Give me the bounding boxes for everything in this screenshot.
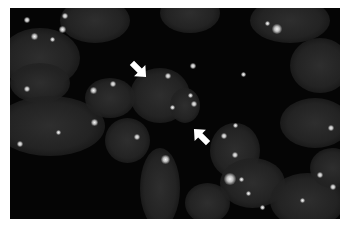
arrow-down-right-icon (127, 58, 151, 82)
focus (24, 17, 30, 23)
nucleus (140, 148, 180, 219)
micrograph (10, 8, 340, 219)
arrow-up-left-icon (189, 124, 213, 148)
focus (161, 155, 170, 164)
nucleus (160, 8, 220, 33)
focus (191, 101, 197, 107)
focus (224, 173, 236, 185)
focus (165, 73, 171, 79)
focus (246, 191, 251, 196)
focus (265, 21, 270, 26)
focus (328, 125, 334, 131)
nucleus (290, 38, 340, 93)
focus (170, 105, 175, 110)
nucleus (280, 98, 340, 148)
nucleus (105, 118, 150, 163)
focus (17, 141, 23, 147)
focus (241, 72, 246, 77)
focus (221, 133, 227, 139)
focus (59, 26, 66, 33)
focus (233, 123, 238, 128)
focus (300, 198, 305, 203)
focus (62, 13, 68, 19)
focus (24, 86, 30, 92)
focus (232, 152, 238, 158)
focus (317, 172, 323, 178)
focus (134, 134, 140, 140)
focus (330, 184, 336, 190)
focus (110, 81, 116, 87)
focus (239, 177, 244, 182)
focus (56, 130, 61, 135)
nucleus (185, 183, 230, 219)
focus (188, 93, 193, 98)
focus (91, 119, 98, 126)
focus (90, 87, 97, 94)
focus (260, 205, 265, 210)
focus (31, 33, 38, 40)
focus (190, 63, 196, 69)
focus (50, 37, 55, 42)
focus (272, 24, 282, 34)
